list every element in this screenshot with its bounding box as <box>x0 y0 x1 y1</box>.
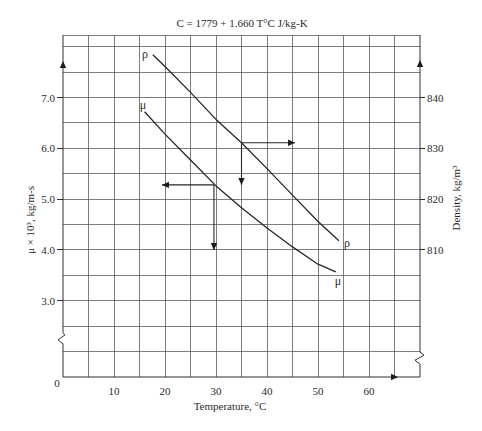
annotation-arrowhead-icon <box>162 182 169 188</box>
right-tick-label: 820 <box>427 193 444 205</box>
left-tick-label: 4.0 <box>41 244 55 256</box>
chart-canvas: C = 1779 + 1.660 T°C J/kg-K Temperature,… <box>0 0 482 431</box>
series-line-viscosity <box>145 112 336 272</box>
x-tick-label: 30 <box>211 385 223 397</box>
x-axis-label: Temperature, °C <box>194 400 267 412</box>
curve-label-start: ρ <box>142 47 148 61</box>
x-tick-label: 10 <box>109 385 121 397</box>
right-axis-arrow-icon <box>417 60 423 67</box>
right-tick-label: 830 <box>427 142 444 154</box>
x-tick-label: 40 <box>262 385 274 397</box>
left-axis-arrow-icon <box>60 61 66 68</box>
chart-title: C = 1779 + 1.660 T°C J/kg-K <box>176 17 307 29</box>
curve-label-end: ρ <box>344 236 350 250</box>
series-line-density <box>153 55 339 241</box>
x-tick-label: 50 <box>313 385 325 397</box>
x-tick-label: 20 <box>160 385 172 397</box>
y-axis-label-right: Density, kg/m³ <box>450 165 462 231</box>
annotation-arrowhead-icon <box>238 178 244 185</box>
gridlines <box>63 35 420 377</box>
left-tick-label: 5.0 <box>41 193 55 205</box>
x-tick-label: 60 <box>364 385 376 397</box>
left-y-axis-with-break <box>58 35 65 377</box>
annotation-arrowhead-icon <box>288 140 295 146</box>
curve-label-end: μ <box>335 274 341 288</box>
y-axis-label-left: μ × 10³, kg/m-s <box>24 186 36 254</box>
left-tick-label: 7.0 <box>41 92 55 104</box>
right-y-axis-with-break <box>415 35 424 377</box>
right-tick-label: 810 <box>427 244 444 256</box>
left-tick-label: 6.0 <box>41 142 55 154</box>
curve-label-start: μ <box>140 98 146 112</box>
origin-label: 0 <box>54 377 60 389</box>
left-tick-label: 3.0 <box>41 295 55 307</box>
right-tick-label: 840 <box>427 92 444 104</box>
chart-figure: C = 1779 + 1.660 T°C J/kg-K Temperature,… <box>0 0 482 431</box>
